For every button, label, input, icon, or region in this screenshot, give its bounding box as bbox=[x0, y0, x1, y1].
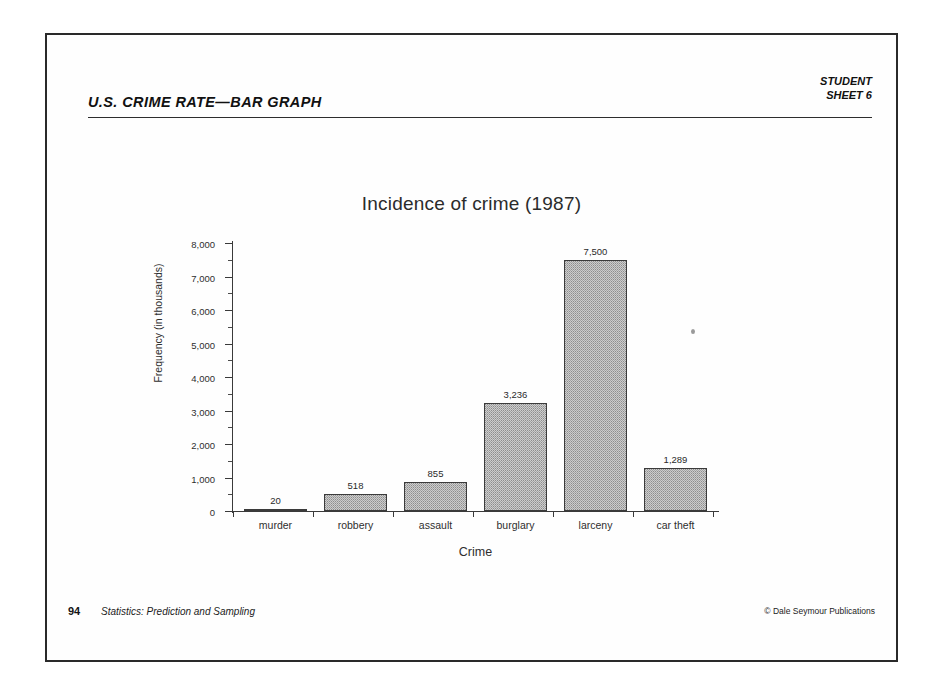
x-axis-category-label: assault bbox=[396, 519, 476, 531]
y-axis-tick: 8,000 bbox=[225, 243, 232, 244]
y-axis-tick-label: 3,000 bbox=[191, 406, 215, 417]
bar-value-label: 1,289 bbox=[644, 454, 707, 465]
y-axis-tick: 1,000 bbox=[225, 478, 232, 479]
bar[interactable] bbox=[484, 403, 547, 511]
bar[interactable] bbox=[324, 494, 387, 511]
y-axis-tick: 5,000 bbox=[225, 344, 232, 345]
y-axis-minor-tick bbox=[228, 427, 232, 428]
y-axis-tick-label: 8,000 bbox=[191, 239, 215, 250]
page-number: 94 bbox=[68, 605, 80, 617]
chart-title: Incidence of crime (1987) bbox=[45, 193, 898, 215]
y-axis-minor-tick bbox=[228, 293, 232, 294]
bar[interactable] bbox=[644, 468, 707, 511]
y-axis-tick: 4,000 bbox=[225, 377, 232, 378]
y-axis-tick-label: 0 bbox=[210, 507, 215, 518]
y-axis-tick-label: 4,000 bbox=[191, 373, 215, 384]
copyright-notice: © Dale Seymour Publications bbox=[764, 606, 875, 616]
x-axis-tick bbox=[553, 511, 554, 517]
bar-value-label: 7,500 bbox=[564, 246, 627, 257]
y-axis-minor-tick bbox=[228, 360, 232, 361]
y-axis-tick: 3,000 bbox=[225, 411, 232, 412]
y-axis-line bbox=[232, 241, 233, 513]
bar-value-label: 855 bbox=[404, 468, 467, 479]
x-axis-tick bbox=[633, 511, 634, 517]
x-axis-category-label: burglary bbox=[476, 519, 556, 531]
x-axis-category-label: larceny bbox=[556, 519, 636, 531]
y-axis-minor-tick bbox=[228, 461, 232, 462]
y-axis-minor-tick bbox=[228, 327, 232, 328]
bar-value-label: 518 bbox=[324, 480, 387, 491]
bar-chart: Incidence of crime (1987) Frequency (in … bbox=[45, 33, 898, 662]
bar[interactable] bbox=[564, 260, 627, 511]
plot-area: 01,0002,0003,0004,0005,0006,0007,0008,00… bbox=[232, 243, 719, 511]
y-axis-minor-tick bbox=[228, 260, 232, 261]
x-axis-category-label: robbery bbox=[316, 519, 396, 531]
x-axis-title: Crime bbox=[232, 545, 719, 559]
x-axis-tick bbox=[393, 511, 394, 517]
y-axis-tick-label: 2,000 bbox=[191, 440, 215, 451]
x-axis-tick bbox=[233, 511, 234, 517]
scan-artifact-speck bbox=[691, 329, 695, 334]
y-axis-tick: 0 bbox=[225, 511, 232, 512]
y-axis-tick-label: 7,000 bbox=[191, 272, 215, 283]
x-axis-line bbox=[232, 511, 719, 512]
bar[interactable] bbox=[404, 482, 467, 511]
y-axis-minor-tick bbox=[228, 394, 232, 395]
y-axis-tick-label: 6,000 bbox=[191, 306, 215, 317]
bar[interactable] bbox=[244, 509, 307, 511]
x-axis-tick bbox=[473, 511, 474, 517]
book-title: Statistics: Prediction and Sampling bbox=[101, 606, 255, 617]
y-axis-tick: 2,000 bbox=[225, 444, 232, 445]
y-axis-tick-label: 1,000 bbox=[191, 473, 215, 484]
y-axis-tick: 6,000 bbox=[225, 310, 232, 311]
y-axis-tick: 7,000 bbox=[225, 277, 232, 278]
page-footer: 94 Statistics: Prediction and Sampling ©… bbox=[68, 605, 875, 621]
bar-value-label: 3,236 bbox=[484, 389, 547, 400]
y-axis-title: Frequency (in thousands) bbox=[152, 223, 164, 423]
bar-value-label: 20 bbox=[244, 495, 307, 506]
x-axis-category-label: murder bbox=[236, 519, 316, 531]
y-axis-tick-label: 5,000 bbox=[191, 339, 215, 350]
x-axis-category-label: car theft bbox=[636, 519, 716, 531]
x-axis-tick bbox=[713, 511, 714, 517]
x-axis-tick bbox=[313, 511, 314, 517]
y-axis-minor-tick bbox=[228, 494, 232, 495]
